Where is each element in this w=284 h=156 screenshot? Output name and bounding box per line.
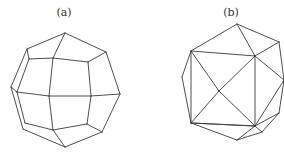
edge	[279, 80, 284, 113]
edge	[191, 51, 255, 56]
edge	[237, 132, 262, 140]
edge	[17, 59, 29, 92]
edge	[17, 92, 25, 123]
edge	[17, 92, 49, 96]
edge	[255, 126, 262, 132]
figure-label-b: (b)	[223, 6, 239, 19]
edge	[106, 52, 120, 94]
edge	[191, 51, 219, 91]
edge	[219, 56, 255, 91]
edge	[29, 58, 53, 59]
figure-canvas: (a) (b)	[0, 0, 284, 156]
edge	[53, 33, 65, 58]
edge	[237, 126, 255, 140]
edge	[87, 96, 91, 124]
edge	[49, 96, 53, 130]
edge	[87, 124, 102, 132]
edge	[102, 94, 120, 132]
edge	[27, 33, 65, 49]
edge	[91, 94, 120, 96]
edge	[237, 24, 279, 42]
edge	[255, 42, 279, 56]
edge	[255, 56, 284, 80]
edge	[255, 80, 284, 126]
polyhedra-drawing	[0, 0, 284, 156]
edge	[191, 123, 237, 140]
edge	[88, 62, 91, 96]
edge	[53, 58, 88, 62]
edge	[191, 91, 219, 123]
edge	[65, 132, 102, 147]
edge	[27, 49, 29, 59]
edge	[182, 51, 191, 77]
edge	[25, 123, 53, 130]
edge	[191, 24, 237, 51]
edge	[88, 52, 106, 62]
edge	[11, 49, 27, 87]
polyhedron-b	[182, 24, 284, 140]
edge	[65, 33, 106, 52]
edge	[49, 58, 53, 96]
polyhedron-a	[11, 33, 120, 147]
figure-label-a: (a)	[56, 6, 71, 19]
edge	[53, 124, 87, 130]
edge	[219, 91, 255, 126]
edge	[191, 123, 255, 126]
edge	[262, 113, 279, 132]
edge	[182, 77, 191, 123]
edge	[279, 42, 284, 80]
edge	[237, 24, 255, 56]
